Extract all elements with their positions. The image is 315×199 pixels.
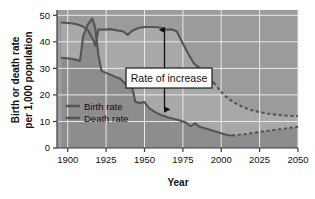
x-tick-label: 2025 [249,154,270,165]
y-tick-label: 0 [45,142,50,153]
x-tick-label: 1975 [172,154,193,165]
y-axis-title-line1: Birth or death rate [10,36,21,123]
x-axis-title: Year [167,177,188,188]
x-tick-label: 1925 [96,154,117,165]
chart-container: 01020304050 1900192519501975200020252050… [0,0,315,199]
annotation-label: Rate of increase [131,72,208,84]
x-tick-label: 2050 [287,154,308,165]
legend-label-death-rate: Death rate [84,113,128,124]
birth-death-rate-line-chart: 01020304050 1900192519501975200020252050… [0,0,315,199]
y-tick-label: 40 [39,36,50,47]
legend-label-birth-rate: Birth rate [84,101,123,112]
y-tick-label: 50 [39,10,50,21]
y-tick-label: 20 [39,89,50,100]
x-tick-label: 2000 [211,154,232,165]
x-tick-label: 1950 [134,154,155,165]
y-axis-title-line2: per 1,000 population [23,31,34,128]
y-tick-label: 30 [39,63,50,74]
x-tick-label: 1900 [57,154,78,165]
y-tick-label: 10 [39,116,50,127]
